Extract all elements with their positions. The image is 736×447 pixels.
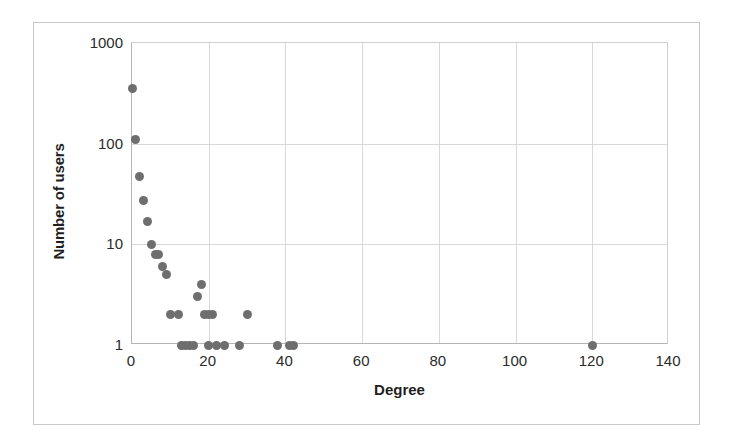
data-point — [128, 84, 137, 93]
x-tick-label: 0 — [127, 352, 135, 369]
data-point — [220, 341, 229, 350]
data-point — [174, 310, 183, 319]
data-point — [147, 240, 156, 249]
data-point — [243, 310, 252, 319]
data-point — [208, 310, 217, 319]
data-point — [135, 172, 144, 181]
x-tick-label: 140 — [655, 352, 680, 369]
data-point — [139, 196, 148, 205]
gridline-horizontal — [132, 244, 667, 245]
data-point — [193, 292, 202, 301]
x-axis-title: Degree — [131, 381, 668, 398]
gridline-horizontal — [132, 144, 667, 145]
x-tick-label: 60 — [353, 352, 370, 369]
y-tick-label: 100 — [98, 134, 123, 151]
gridline-vertical — [362, 43, 363, 343]
x-tick-label: 80 — [430, 352, 447, 369]
y-tick-label: 1000 — [90, 34, 123, 51]
y-axis-title: Number of users — [50, 92, 67, 312]
gridline-vertical — [439, 43, 440, 343]
x-tick-label: 40 — [276, 352, 293, 369]
data-point — [197, 280, 206, 289]
data-point — [289, 341, 298, 350]
x-tick-label: 20 — [199, 352, 216, 369]
gridline-vertical — [209, 43, 210, 343]
data-point — [162, 270, 171, 279]
x-tick-label: 120 — [579, 352, 604, 369]
figure: 020406080100120140 1101001000 Degree Num… — [0, 0, 736, 447]
data-point — [189, 341, 198, 350]
data-point — [588, 341, 597, 350]
data-point — [143, 217, 152, 226]
data-point — [273, 341, 282, 350]
data-point — [235, 341, 244, 350]
plot-area — [131, 42, 668, 344]
data-point — [131, 135, 140, 144]
data-point — [154, 250, 163, 259]
y-tick-label: 1 — [115, 336, 123, 353]
gridline-vertical — [285, 43, 286, 343]
x-tick-label: 100 — [502, 352, 527, 369]
y-tick-label: 10 — [106, 235, 123, 252]
gridline-vertical — [516, 43, 517, 343]
gridline-vertical — [592, 43, 593, 343]
